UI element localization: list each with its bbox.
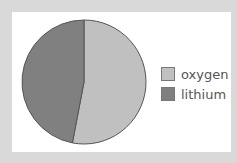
legend-item-lithium: lithium [161, 84, 228, 104]
legend-label: lithium [181, 87, 226, 102]
legend-swatch-oxygen [161, 67, 175, 81]
legend-label: oxygen [181, 67, 228, 82]
pie-slice-lithium [22, 20, 84, 143]
pie-slices [22, 20, 146, 144]
legend: oxygen lithium [161, 64, 228, 104]
legend-swatch-lithium [161, 87, 175, 101]
legend-item-oxygen: oxygen [161, 64, 228, 84]
